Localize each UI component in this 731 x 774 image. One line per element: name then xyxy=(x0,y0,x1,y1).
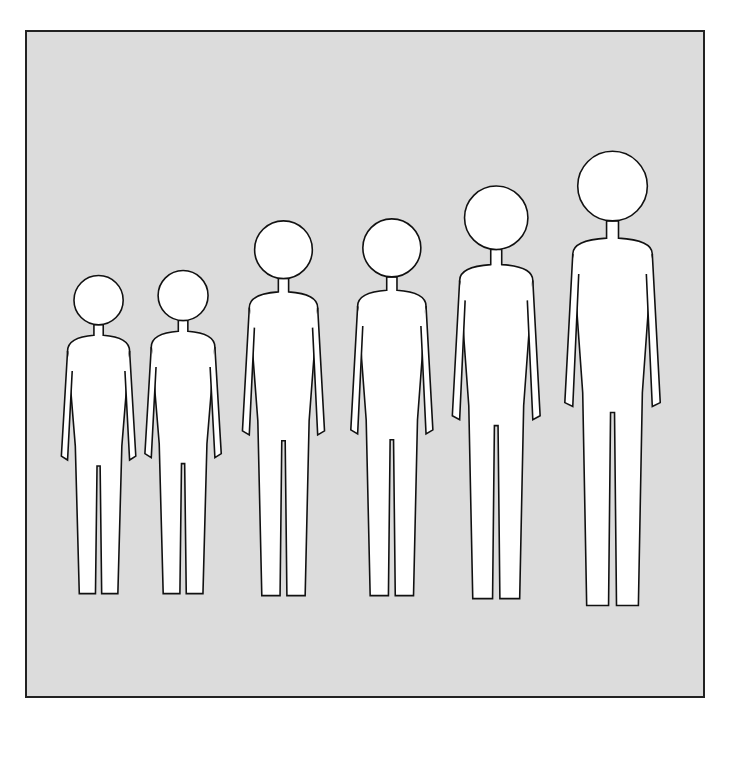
caption-cut-off xyxy=(25,752,705,774)
standing-figure-silhouette xyxy=(145,271,221,594)
standing-figure-silhouette xyxy=(565,151,660,605)
standing-figure-silhouette xyxy=(242,221,324,596)
figures-canvas xyxy=(27,32,703,696)
illustration-panel xyxy=(25,30,705,698)
standing-figure-silhouette xyxy=(452,186,540,599)
standing-figure-silhouette xyxy=(61,276,135,594)
standing-figure-silhouette xyxy=(351,219,433,596)
